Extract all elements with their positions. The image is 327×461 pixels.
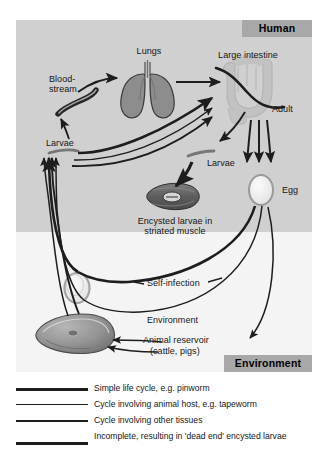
label-lungs: Lungs xyxy=(127,46,171,57)
legend-swatch-other-tissues xyxy=(16,420,88,422)
label-large-intestine: Large intestine xyxy=(206,50,290,61)
label-encysted-line2: striated muscle xyxy=(120,226,230,237)
label-bloodstream-line1: Blood- xyxy=(49,74,75,85)
legend-label-incomplete: Incomplete, resulting in 'dead end' ency… xyxy=(94,430,286,441)
flow-simple-life-cycle xyxy=(78,98,212,153)
legend-row-animal-host: Cycle involving animal host, e.g. tapewo… xyxy=(16,398,312,409)
label-larvae-left: Larvae xyxy=(46,138,74,149)
adult-worm-icon xyxy=(216,68,284,108)
larva-center-icon xyxy=(188,151,214,156)
legend: Simple life cycle, e.g. pinworm Cycle in… xyxy=(16,382,312,449)
legend-swatch-simple-life-cycle xyxy=(16,388,88,391)
diagram-canvas: Human Environment xyxy=(16,20,312,372)
legend-swatch-animal-host xyxy=(16,404,88,406)
leader-self-infection-left xyxy=(134,282,144,284)
lungs-icon xyxy=(121,60,174,118)
label-environment-route: Environment xyxy=(147,315,198,326)
legend-row-incomplete: Incomplete, resulting in 'dead end' ency… xyxy=(16,430,312,445)
arrow-adult-to-egg-3 xyxy=(267,120,271,162)
label-animal-reservoir-line1: Animal reservoir xyxy=(143,335,209,346)
arrow-adult-to-egg-1 xyxy=(247,120,251,162)
arrow-larvae-to-encysted xyxy=(176,162,192,186)
legend-row-other-tissues: Cycle involving other tissues xyxy=(16,414,312,425)
parasite-life-cycle-figure: Human Environment xyxy=(0,0,327,461)
legend-label-animal-host: Cycle involving animal host, e.g. tapewo… xyxy=(94,398,257,409)
animal-reservoir-icon xyxy=(36,314,115,354)
leader-self-infection-right xyxy=(208,278,222,282)
legend-label-simple-life-cycle: Simple life cycle, e.g. pinworm xyxy=(94,382,210,393)
label-animal-reservoir-line2: (cattle, pigs) xyxy=(150,346,200,357)
legend-swatch-incomplete xyxy=(16,442,88,445)
legend-label-other-tissues: Cycle involving other tissues xyxy=(94,414,202,425)
label-larvae-center: Larvae xyxy=(207,158,235,169)
label-adult: Adult xyxy=(272,104,293,115)
larva-left-icon xyxy=(49,150,78,153)
label-encysted-line1: Encysted larvae in xyxy=(120,216,230,227)
label-self-infection: Self-infection xyxy=(147,278,200,289)
arrow-larvae-to-bloodstream xyxy=(61,119,69,139)
encysted-larva-icon xyxy=(147,183,200,209)
legend-row-simple-life-cycle: Simple life cycle, e.g. pinworm xyxy=(16,382,312,393)
egg-human-icon xyxy=(249,175,273,205)
label-egg: Egg xyxy=(282,185,298,196)
label-bloodstream-line2: stream xyxy=(49,84,77,95)
flow-egg-to-animal-reservoir xyxy=(250,207,273,338)
